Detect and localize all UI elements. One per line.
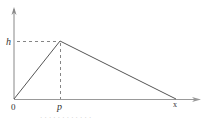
y-tick-label-h: h xyxy=(6,37,11,47)
x-axis-label: x xyxy=(173,101,177,109)
figure-caption: · · · · · · · · · · · · xyxy=(40,114,150,122)
density-curve xyxy=(14,41,176,99)
origin-label: 0 xyxy=(11,103,16,112)
x-tick-label-p: p xyxy=(57,102,62,112)
triangle-distribution-figure: h 0 p x · · · · · · · · · · · · xyxy=(0,0,207,124)
